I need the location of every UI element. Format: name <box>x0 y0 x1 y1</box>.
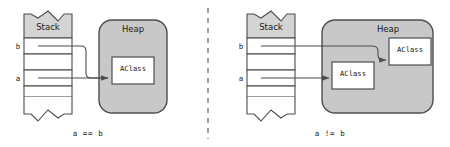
right-panel-caption: a != b <box>315 129 346 138</box>
left-heap-title: Heap <box>122 24 144 34</box>
right-stack-label-a: a <box>239 74 244 83</box>
right-stack-cell-empty-2 <box>247 86 295 97</box>
right-stack-torn-bottom <box>247 97 295 121</box>
right-heap: Heap AClass AClass <box>322 20 433 113</box>
right-heap-object-a-label: AClass <box>340 69 366 78</box>
left-stack-cell-empty-2 <box>24 86 72 97</box>
right-stack-label-b: b <box>239 42 244 51</box>
left-stack: Stack b a <box>16 11 72 121</box>
left-stack-label-a: a <box>16 74 21 83</box>
left-stack-label-b: b <box>16 42 21 51</box>
panel-right: Stack b a Heap AClass AClass <box>239 11 433 138</box>
left-heap-object-label: AClass <box>120 64 146 73</box>
left-heap: Heap AClass <box>99 20 167 113</box>
right-heap-title: Heap <box>377 24 399 34</box>
left-stack-cell-empty-1 <box>24 54 72 70</box>
left-stack-title: Stack <box>36 22 60 32</box>
right-heap-object-b-label: AClass <box>397 45 423 54</box>
left-stack-torn-bottom <box>24 97 72 121</box>
left-panel-caption: a == b <box>73 129 104 138</box>
right-stack-cell-empty-1 <box>247 54 295 70</box>
diagram-canvas: Stack b a Heap AClass <box>0 0 450 147</box>
right-stack: Stack b a <box>239 11 295 121</box>
right-stack-title: Stack <box>259 22 283 32</box>
stack-heap-reference-diagram: Stack b a Heap AClass <box>0 0 450 147</box>
panel-left: Stack b a Heap AClass <box>16 11 167 138</box>
